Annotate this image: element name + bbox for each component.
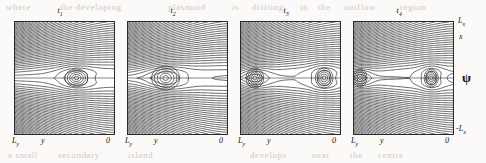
x-axis-left-tick-panel-1: Ly [12,136,19,147]
x-axis-right-tick-panel-2: 0 [219,136,223,145]
x-axis-label-panel-3: y [267,136,271,145]
panel-title-subscript: 4 [399,11,402,17]
contour-field-t2 [128,22,227,134]
bleed-text-14: the [350,150,363,160]
panel-title-t1: t1 [58,6,63,17]
panel-title-subscript: 3 [286,11,289,17]
x-axis-left-tick-panel-2: Ly [125,136,132,147]
y-axis-top-tick: Lx [458,16,465,27]
bleed-text-1: the developing [60,2,122,12]
bleed-text-4: drifting [252,2,284,12]
quantity-symbol-psi: ψ [462,70,471,86]
bleed-text-6: the [318,2,331,12]
bleed-text-10: secondary [58,150,100,160]
panel-title-subscript: 2 [173,11,176,17]
x-axis-right-tick-panel-4: 0 [445,136,449,145]
x-axis-label-panel-4: y [380,136,384,145]
contour-field-t1 [15,22,114,134]
contour-field-t3 [241,22,340,134]
bleed-text-0: where [6,2,31,12]
panel-title-t2: t2 [171,6,176,17]
y-axis-bottom-tick: -Lx [456,124,466,135]
contour-field-t4 [354,22,453,134]
x-axis-label-panel-2: y [154,136,158,145]
bleed-text-12: develops [250,150,287,160]
y-axis-label: x [459,32,463,41]
x-axis-right-tick-panel-1: 0 [106,136,110,145]
panel-title-subscript: 1 [60,11,63,17]
x-axis-left-tick-panel-3: Ly [238,136,245,147]
bleed-text-11: island [128,150,153,160]
bleed-text-7: outflow [344,2,376,12]
bleed-text-13: near [312,150,330,160]
contour-panel-t4 [353,21,454,135]
panel-title-t3: t3 [284,6,289,17]
bleed-text-3: is [232,2,239,12]
contour-panel-t1 [14,21,115,135]
contour-panel-t3 [240,21,341,135]
x-axis-label-panel-1: y [41,136,45,145]
bleed-text-9: a small [8,150,38,160]
bleed-text-8: region [400,2,427,12]
contour-panel-t2 [127,21,228,135]
bleed-text-15: centre [378,150,404,160]
bleed-text-5: in [300,2,308,12]
x-axis-left-tick-panel-4: Ly [351,136,358,147]
x-axis-right-tick-panel-3: 0 [332,136,336,145]
figure-canvas: wherethe developingplasmoidisdriftingint… [0,0,486,163]
panel-title-t4: t4 [397,6,402,17]
